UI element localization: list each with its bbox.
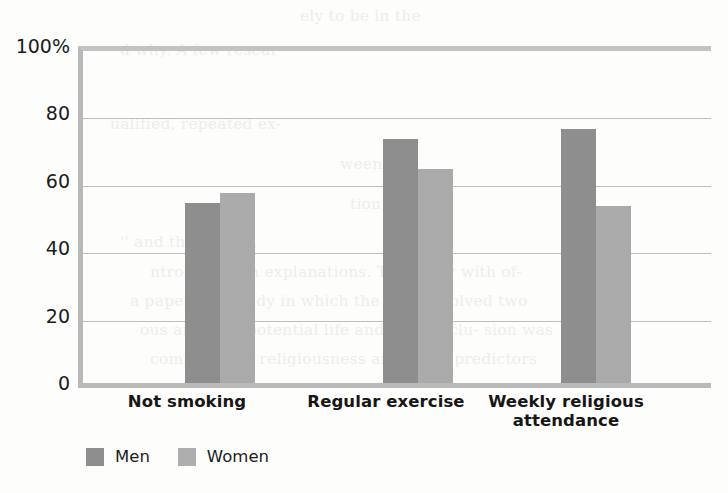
bar-men-regular-exercise[interactable] [383, 139, 418, 388]
bar-women-regular-exercise[interactable] [418, 169, 453, 388]
bar-group-regular-exercise [383, 51, 453, 388]
bar-group-not-smoking [185, 51, 255, 388]
bar-men-weekly-religious-attendance[interactable] [561, 129, 596, 388]
y-tick-label: 0 [6, 372, 70, 394]
legend: Men Women [86, 447, 269, 466]
y-tick-label: 80 [6, 102, 70, 124]
legend-swatch-women-icon [178, 448, 196, 466]
y-tick-label: 60 [6, 170, 70, 192]
x-category-label-weekly-religious-attendance: Weekly religious attendance [478, 392, 654, 430]
bar-group-weekly-religious-attendance [561, 51, 631, 388]
bar-chart: 100% 80 60 40 20 0 Not smoking R [0, 0, 728, 493]
x-category-label-line1: Weekly religious [488, 392, 644, 411]
x-axis-baseline [78, 383, 711, 388]
y-axis: 100% 80 60 40 20 0 [0, 0, 70, 493]
bar-men-not-smoking[interactable] [185, 203, 220, 388]
x-category-label-line1: Not smoking [128, 392, 246, 411]
y-tick-label: 100% [6, 35, 70, 57]
x-category-label-regular-exercise: Regular exercise [300, 392, 472, 411]
legend-label-women: Women [207, 447, 269, 466]
x-category-label-line2: attendance [513, 411, 620, 430]
y-tick-label: 20 [6, 305, 70, 327]
bar-women-not-smoking[interactable] [220, 193, 255, 388]
y-tick-label: 40 [6, 237, 70, 259]
x-category-label-not-smoking: Not smoking [105, 392, 269, 411]
legend-label-men: Men [115, 447, 150, 466]
legend-swatch-men-icon [86, 448, 104, 466]
x-category-label-line1: Regular exercise [307, 392, 464, 411]
plot-area [78, 46, 711, 388]
legend-item-women[interactable]: Women [178, 447, 269, 466]
legend-item-men[interactable]: Men [86, 447, 150, 466]
bar-women-weekly-religious-attendance[interactable] [596, 206, 631, 388]
